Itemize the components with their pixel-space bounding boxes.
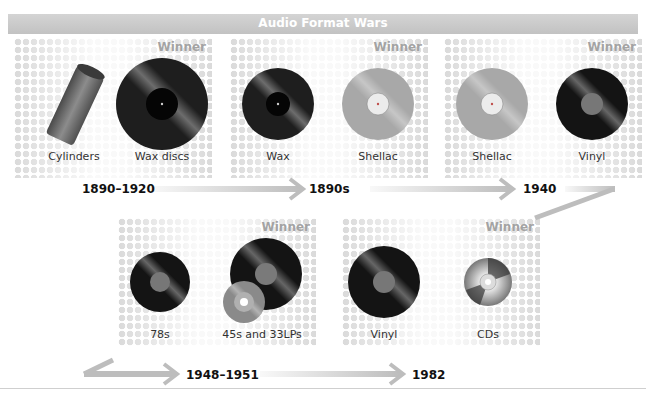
arrow-3 (84, 360, 177, 384)
timeline-arrows (0, 0, 646, 404)
arrow-1 (150, 179, 303, 199)
divider (0, 388, 646, 389)
year-label: 1948–1951 (186, 368, 259, 382)
arrow-2 (370, 179, 513, 199)
year-label: 1940 (523, 182, 556, 196)
year-label: 1890s (309, 182, 350, 196)
year-label: 1890–1920 (82, 182, 155, 196)
year-label: 1982 (412, 368, 445, 382)
arrow-4 (260, 364, 403, 384)
